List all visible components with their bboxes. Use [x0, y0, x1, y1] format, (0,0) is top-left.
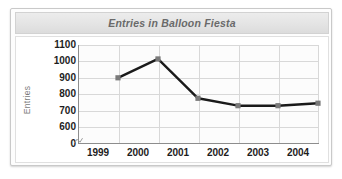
x-tick-label: 2000: [116, 147, 160, 158]
x-tick-label: 1999: [76, 147, 120, 158]
y-tick-label: 1000: [34, 56, 76, 66]
x-tick-label: 2002: [196, 147, 240, 158]
y-tick-label: 1100: [34, 40, 76, 50]
y-axis-label-text: Entries: [22, 86, 32, 115]
data-point-marker: [235, 103, 240, 108]
gridline-vertical: [318, 45, 319, 143]
chart-title: Entries in Balloon Fiesta: [108, 17, 236, 29]
x-tick-label: 2001: [156, 147, 200, 158]
plot-area: Entries 1100 1000 900 800 700 600 0: [15, 36, 329, 163]
x-tick-label: 2004: [276, 147, 320, 158]
y-axis-tick-labels: 1100 1000 900 800 700 600 0: [32, 37, 76, 164]
chart-title-bar: Entries in Balloon Fiesta: [15, 12, 329, 34]
x-tick-label: 2003: [236, 147, 280, 158]
y-tick-label: 700: [34, 106, 76, 116]
y-tick-label: 0: [34, 139, 76, 149]
data-point-marker: [275, 103, 280, 108]
data-point-marker: [155, 56, 160, 61]
line-series: [78, 45, 318, 143]
data-point-marker: [115, 75, 120, 80]
y-tick-label: 900: [34, 73, 76, 83]
series-line-entries: [118, 59, 318, 106]
y-tick-label: 600: [34, 122, 76, 132]
data-point-marker: [195, 96, 200, 101]
y-tick-label: 800: [34, 89, 76, 99]
data-point-marker: [315, 101, 320, 106]
x-axis-line: [78, 143, 319, 144]
chart-card: Entries in Balloon Fiesta Entries 1100 1…: [10, 8, 332, 166]
